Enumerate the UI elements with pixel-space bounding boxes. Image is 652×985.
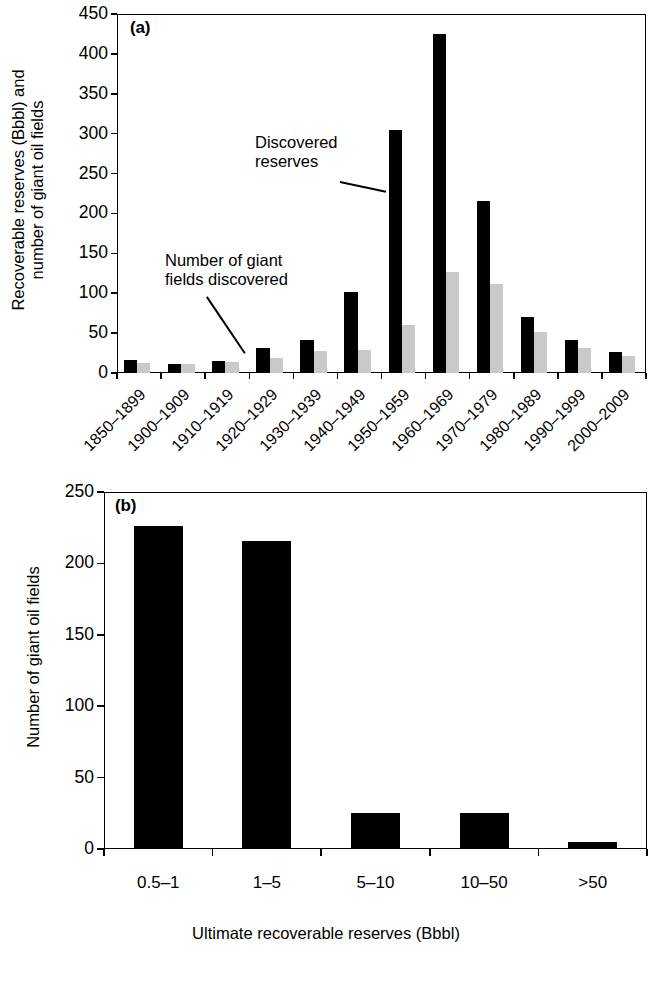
panel-a-bar-number-of-fields <box>225 362 238 373</box>
panel-a-xtick-mark <box>381 373 383 379</box>
panel-b-bar <box>134 526 183 849</box>
panel-b-xtick-mark <box>320 849 322 856</box>
panel-b-ytick-mark <box>97 705 104 707</box>
panel-a-bar-number-of-fields <box>578 348 591 373</box>
panel-b-y-axis-title: Number of giant oil fields <box>24 532 46 782</box>
panel-a-ytick-label: 400 <box>60 45 108 63</box>
panel-b-ytick-mark <box>97 777 104 779</box>
panel-a-annotation-number-of-fields: Number of giant fields discovered <box>165 251 288 289</box>
panel-a-bar-number-of-fields <box>314 351 327 373</box>
panel-a-ytick-label: 0 <box>60 364 108 382</box>
panel-b-xtick-mark <box>212 849 214 856</box>
panel-b-ytick-label: 0 <box>46 840 94 858</box>
panel-a-bar-discovered-reserves <box>433 34 446 373</box>
panel-a-ytick-label: 450 <box>60 5 108 23</box>
panel-a-bar-discovered-reserves <box>168 364 181 373</box>
panel-b-ytick-mark <box>97 563 104 565</box>
panel-b: Number of giant oil fields (b) 050100150… <box>0 480 652 985</box>
panel-b-x-axis-title: Ultimate recoverable reserves (Bbbl) <box>0 924 652 943</box>
panel-b-xtick-label: 10–50 <box>430 873 539 893</box>
panel-a-xtick-mark <box>645 373 647 379</box>
panel-b-xtick-mark <box>429 849 431 856</box>
panel-a-bar-number-of-fields <box>270 358 283 373</box>
panel-b-xtick-label: 5–10 <box>321 873 430 893</box>
panel-b-xtick-mark <box>103 849 105 856</box>
panel-a-bar-number-of-fields <box>181 364 194 373</box>
panel-a-bar-discovered-reserves <box>521 317 534 373</box>
panel-a-bar-discovered-reserves <box>256 348 269 373</box>
panel-b-bar <box>460 813 509 849</box>
panel-a-ytick-label: 100 <box>60 284 108 302</box>
panel-a-ytick-label: 250 <box>60 165 108 183</box>
panel-b-ytick-mark <box>97 491 104 493</box>
panel-a-bar-number-of-fields <box>490 284 503 373</box>
panel-a-ytick-label: 300 <box>60 125 108 143</box>
panel-b-bar <box>351 813 400 849</box>
panel-a-bar-discovered-reserves <box>300 340 313 374</box>
panel-b-ytick-label: 50 <box>46 769 94 787</box>
panel-b-bar <box>568 842 617 849</box>
panel-b-ytick-label: 250 <box>46 483 94 501</box>
panel-b-xtick-label: 0.5–1 <box>104 873 213 893</box>
panel-a-xtick-mark <box>425 373 427 379</box>
panel-b-ytick-label: 100 <box>46 697 94 715</box>
panel-a-bar-number-of-fields <box>358 350 371 373</box>
panel-b-xtick-label: 1–5 <box>213 873 322 893</box>
panel-a-ytick-label: 50 <box>60 324 108 342</box>
panel-b-ytick-label: 150 <box>46 626 94 644</box>
panel-b-bar <box>242 541 291 849</box>
panel-a-bar-discovered-reserves <box>344 292 357 373</box>
panel-a-xtick-mark <box>557 373 559 379</box>
panel-a-ytick-label: 350 <box>60 85 108 103</box>
panel-a-xtick-mark <box>469 373 471 379</box>
panel-a-bar-discovered-reserves <box>477 201 490 373</box>
panel-a-bar-discovered-reserves <box>609 352 622 373</box>
panel-a-bar-discovered-reserves <box>212 361 225 373</box>
panel-a-xtick-mark <box>513 373 515 379</box>
panel-a-ytick-label: 200 <box>60 204 108 222</box>
panel-a-bar-number-of-fields <box>137 363 150 373</box>
panel-b-xtick-mark <box>646 849 648 856</box>
panel-a-bar-number-of-fields <box>402 325 415 373</box>
panel-a-xtick-mark <box>116 373 118 379</box>
panel-a-xtick-mark <box>249 373 251 379</box>
panel-a-ytick-label: 150 <box>60 244 108 262</box>
panel-a: Recoverable reserves (Bbbl) and number o… <box>0 0 652 470</box>
panel-a-annotation-discovered-reserves: Discovered reserves <box>255 133 338 171</box>
panel-b-xtick-mark <box>538 849 540 856</box>
panel-b-bars <box>104 492 647 849</box>
panel-a-xtick-mark <box>293 373 295 379</box>
panel-b-xtick-label: >50 <box>538 873 647 893</box>
panel-a-xtick-mark <box>337 373 339 379</box>
panel-b-ytick-label: 200 <box>46 554 94 572</box>
panel-a-bar-discovered-reserves <box>124 360 137 373</box>
panel-a-bar-discovered-reserves <box>565 340 578 373</box>
panel-a-bar-number-of-fields <box>534 332 547 373</box>
panel-a-bar-number-of-fields <box>622 356 635 373</box>
panel-a-bar-number-of-fields <box>446 272 459 373</box>
panel-a-xtick-mark <box>204 373 206 379</box>
panel-a-xtick-mark <box>160 373 162 379</box>
panel-a-y-axis-title: Recoverable reserves (Bbbl) and number o… <box>9 40 49 340</box>
panel-a-xtick-mark <box>601 373 603 379</box>
panel-b-ytick-mark <box>97 634 104 636</box>
panel-a-bars <box>117 14 646 373</box>
figure-root: Recoverable reserves (Bbbl) and number o… <box>0 0 652 985</box>
panel-a-bar-discovered-reserves <box>389 130 402 373</box>
